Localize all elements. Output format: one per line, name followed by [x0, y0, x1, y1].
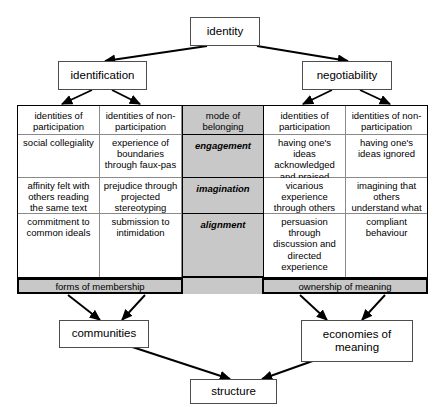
- node-identification[interactable]: identification: [58, 61, 147, 90]
- belonging-matrix: identities of participation identities o…: [17, 105, 428, 278]
- matrix-header-identification-participation: identities of participation: [18, 106, 100, 135]
- edge-ownership-economies-right: [362, 295, 385, 320]
- matrix-cell: prejudice through projected stereotyping: [100, 178, 182, 214]
- cell-label: submission to intimidation: [103, 216, 178, 238]
- edge-negotiability-col5: [360, 90, 390, 104]
- matrix-header-mode-of-belonging: mode of belonging: [182, 106, 264, 135]
- node-negotiability[interactable]: negotiability: [302, 61, 392, 90]
- edge-ownership-economies-left: [300, 295, 327, 320]
- header-col5-label: identities of non-participation: [349, 110, 424, 132]
- edge-identity-negotiability: [257, 46, 348, 61]
- matrix-cell: commitment to common ideals: [18, 214, 100, 277]
- footer-forms-of-membership: forms of membership: [17, 278, 183, 294]
- cell-label: having one's ideas acknowledged and prai…: [267, 137, 342, 182]
- matrix-cell: having one's ideas ignored: [346, 135, 427, 178]
- cell-label: compliant behaviour: [349, 216, 424, 238]
- matrix-header-identification-nonparticipation: identities of non-participation: [100, 106, 182, 135]
- footer-left-label: forms of membership: [55, 281, 144, 292]
- mode-label: alignment: [201, 219, 246, 230]
- node-communities-label: communities: [72, 327, 137, 340]
- matrix-cell: imagining that others understand what yo…: [346, 178, 427, 214]
- matrix-header-negotiability-participation: identities of participation: [264, 106, 346, 135]
- matrix-cell: having one's ideas acknowledged and prai…: [264, 135, 346, 178]
- header-col2-label: identities of non-participation: [103, 110, 178, 132]
- matrix-cell: submission to intimidation: [100, 214, 182, 277]
- footer-bar-spacer: [181, 278, 263, 294]
- matrix-cell: compliant behaviour: [346, 214, 427, 277]
- matrix-mode-cell: alignment: [182, 214, 264, 277]
- header-col1-label: identities of participation: [21, 110, 96, 132]
- matrix-mode-cell: imagination: [182, 178, 264, 214]
- edge-identification-col2: [112, 90, 140, 104]
- node-communities[interactable]: communities: [59, 320, 149, 348]
- node-economies-of-meaning-label: economies of meaning: [302, 328, 412, 354]
- footer-right-label: ownership of meaning: [299, 281, 392, 292]
- header-col4-label: identities of participation: [267, 110, 342, 132]
- edge-identity-identification: [105, 46, 207, 61]
- diagram-canvas: identity identification negotiability id…: [0, 0, 444, 407]
- matrix-cell: affinity felt with others reading the sa…: [18, 178, 100, 214]
- cell-label: having one's ideas ignored: [349, 137, 424, 159]
- cell-label: prejudice through projected stereotyping: [103, 180, 178, 214]
- cell-label: commitment to common ideals: [21, 216, 96, 238]
- mode-label: engagement: [195, 140, 251, 151]
- node-structure[interactable]: structure: [190, 379, 277, 404]
- matrix-cell: vicarious experience through others: [264, 178, 346, 214]
- node-structure-label: structure: [211, 385, 256, 398]
- matrix-cell: social collegiality: [18, 135, 100, 178]
- matrix-header-negotiability-nonparticipation: identities of non-participation: [346, 106, 427, 135]
- header-col3-label: mode of belonging: [186, 110, 260, 132]
- cell-label: experience of boundaries through faux-pa…: [103, 137, 178, 171]
- cell-label: affinity felt with others reading the sa…: [21, 180, 96, 214]
- edge-identification-col1: [62, 90, 92, 104]
- node-identity-label: identity: [207, 25, 243, 38]
- matrix-mode-cell: engagement: [182, 135, 264, 178]
- node-identification-label: identification: [71, 69, 135, 82]
- cell-label: persuasion through discussion and direct…: [267, 216, 342, 272]
- node-identity[interactable]: identity: [190, 17, 260, 46]
- footer-ownership-of-meaning: ownership of meaning: [262, 278, 428, 294]
- edge-membership-communities-right: [122, 295, 145, 320]
- node-negotiability-label: negotiability: [317, 69, 378, 82]
- mode-label: imagination: [196, 183, 249, 194]
- cell-label: vicarious experience through others: [267, 180, 342, 214]
- node-economies-of-meaning[interactable]: economies of meaning: [301, 320, 413, 362]
- matrix-cell: persuasion through discussion and direct…: [264, 214, 346, 277]
- edge-membership-communities-left: [68, 295, 100, 320]
- matrix-cell: experience of boundaries through faux-pa…: [100, 135, 182, 178]
- cell-label: social collegiality: [23, 137, 94, 148]
- edge-negotiability-col4: [303, 90, 332, 104]
